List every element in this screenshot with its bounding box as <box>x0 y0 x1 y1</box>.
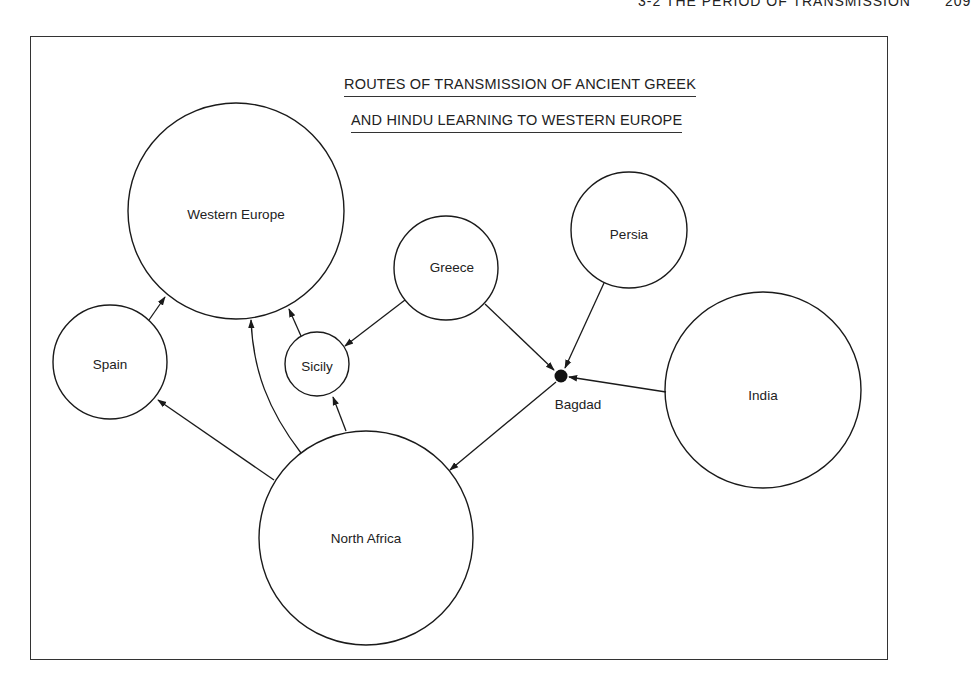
edge-greece-to-bagdad <box>485 304 554 370</box>
label-bagdad: Bagdad <box>555 397 602 412</box>
label-spain: Spain <box>93 357 128 372</box>
page-number: 209 <box>945 0 971 9</box>
edge-north-africa-to-sicily <box>333 397 346 431</box>
label-western-europe: Western Europe <box>187 207 284 222</box>
label-india: India <box>748 388 777 403</box>
label-persia: Persia <box>610 227 648 242</box>
edge-greece-to-sicily <box>345 300 405 346</box>
label-north-africa: North Africa <box>331 531 402 546</box>
label-sicily: Sicily <box>301 359 333 374</box>
edge-india-to-bagdad <box>569 377 666 392</box>
edge-spain-to-western-europe <box>149 297 165 320</box>
edge-north-africa-to-spain <box>158 400 274 480</box>
edge-sicily-to-western-europe <box>289 309 301 336</box>
edge-bagdad-to-north-africa <box>450 382 556 470</box>
node-bagdad-dot <box>555 370 568 383</box>
label-greece: Greece <box>430 260 474 275</box>
edge-persia-to-bagdad <box>565 283 604 368</box>
